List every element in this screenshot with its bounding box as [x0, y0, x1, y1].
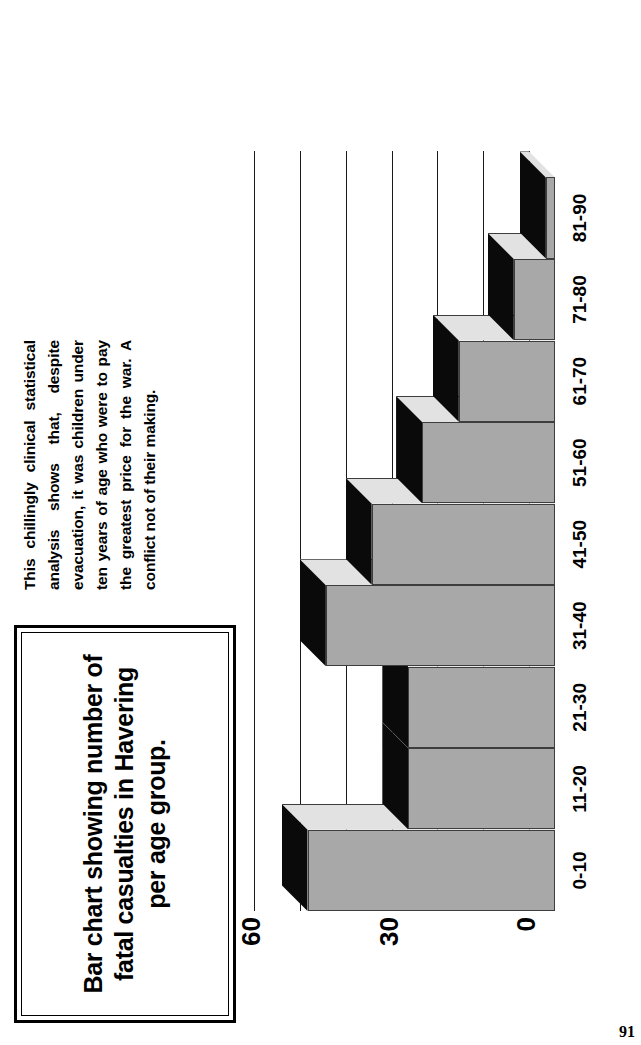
bar-front-face: [372, 504, 555, 585]
bar-front-face: [459, 341, 555, 422]
category-tick-11-20: 11-20: [569, 755, 591, 823]
bar-front-face: [514, 259, 555, 340]
gridline: [300, 151, 301, 911]
title-box: Bar chart showing number of fatal casual…: [14, 625, 236, 1023]
page-number: 91: [619, 1023, 635, 1041]
category-tick-41-50: 41-50: [569, 510, 591, 578]
bar-front-face: [408, 667, 555, 748]
bar-front-face: [408, 748, 555, 829]
bar-81-90: [520, 151, 555, 258]
bar-front-face: [546, 177, 555, 258]
page-title: Bar chart showing number of fatal casual…: [78, 633, 172, 1015]
value-tick-30: 30: [374, 917, 405, 957]
rotated-figure-stage: Bar chart showing number of fatal casual…: [0, 0, 641, 1045]
category-tick-61-70: 61-70: [569, 347, 591, 415]
category-tick-21-30: 21-30: [569, 673, 591, 741]
value-tick-60: 60: [236, 917, 267, 957]
category-tick-51-60: 51-60: [569, 429, 591, 497]
caption-text: This chillingly clinical statistical ana…: [18, 340, 162, 590]
category-tick-81-90: 81-90: [569, 184, 591, 252]
category-tick-0-10: 0-10: [569, 836, 591, 904]
category-tick-71-80: 71-80: [569, 266, 591, 334]
bar-front-face: [422, 422, 555, 503]
bar-front-face: [326, 585, 555, 666]
plot-area: [250, 151, 555, 911]
category-tick-31-40: 31-40: [569, 592, 591, 660]
bar-chart: 03060 0-1011-2021-3031-4041-5051-6061-70…: [250, 0, 641, 1045]
title-box-inner-border: Bar chart showing number of fatal casual…: [21, 632, 229, 1016]
bar-front-face: [308, 830, 556, 911]
value-tick-0: 0: [511, 917, 542, 957]
page-root: Bar chart showing number of fatal casual…: [0, 0, 641, 1045]
gridline: [254, 151, 255, 911]
